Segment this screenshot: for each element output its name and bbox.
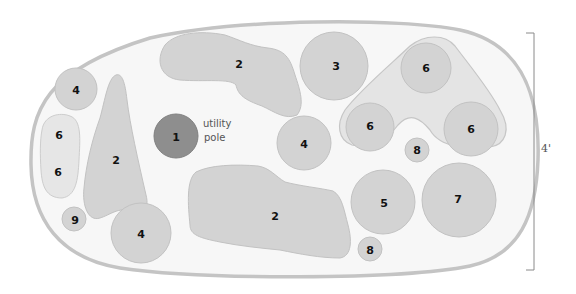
plant-3: 3 bbox=[300, 32, 368, 100]
plant-4-middle: 4 bbox=[277, 116, 331, 170]
svg-text:2: 2 bbox=[271, 210, 279, 223]
plant-8-lower: 8 bbox=[358, 237, 382, 261]
svg-text:3: 3 bbox=[332, 60, 340, 73]
plant-4-top-left: 4 bbox=[55, 68, 97, 110]
plant-6-pill: 6 6 bbox=[40, 114, 79, 198]
plant-6-left: 6 bbox=[346, 103, 394, 151]
plant-6-right: 6 bbox=[444, 102, 498, 156]
svg-text:8: 8 bbox=[413, 144, 421, 157]
dimension-label: 4' bbox=[541, 142, 551, 155]
plant-8-upper: 8 bbox=[405, 138, 429, 162]
svg-text:6: 6 bbox=[54, 166, 62, 179]
plant-6-top: 6 bbox=[401, 43, 451, 93]
plant-1-utility-pole: 1 bbox=[154, 114, 198, 158]
svg-text:6: 6 bbox=[467, 123, 475, 136]
svg-text:7: 7 bbox=[454, 193, 462, 206]
planting-diagram: 2 3 6 6 6 8 4 6 6 2 1 utilit bbox=[0, 0, 576, 294]
svg-text:4: 4 bbox=[300, 138, 308, 151]
utility-pole-label-line2: pole bbox=[204, 132, 225, 143]
svg-text:2: 2 bbox=[112, 154, 120, 167]
plant-4-bottom-left: 4 bbox=[111, 203, 171, 263]
svg-text:5: 5 bbox=[380, 197, 388, 210]
utility-pole-label-line1: utility bbox=[203, 118, 232, 129]
svg-text:6: 6 bbox=[55, 129, 63, 142]
svg-text:9: 9 bbox=[71, 214, 79, 227]
svg-text:6: 6 bbox=[366, 120, 374, 133]
svg-text:2: 2 bbox=[235, 58, 243, 71]
svg-text:6: 6 bbox=[422, 62, 430, 75]
plant-9: 9 bbox=[62, 207, 86, 231]
svg-text:8: 8 bbox=[366, 244, 374, 257]
svg-text:4: 4 bbox=[137, 228, 145, 241]
plant-5: 5 bbox=[351, 170, 415, 234]
svg-text:4: 4 bbox=[72, 84, 80, 97]
plant-7: 7 bbox=[422, 163, 496, 237]
svg-text:1: 1 bbox=[172, 131, 180, 144]
